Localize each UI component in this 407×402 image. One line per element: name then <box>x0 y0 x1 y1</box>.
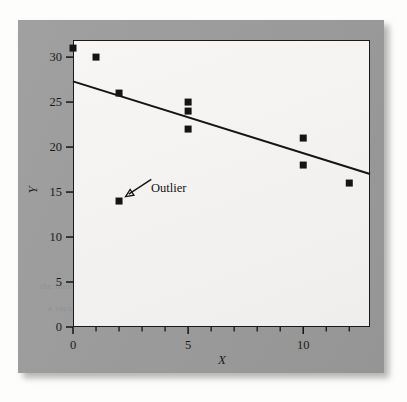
y-tick-label: 30 <box>31 51 62 64</box>
y-tick-label: 20 <box>31 141 62 154</box>
y-axis-title: Y <box>25 186 41 193</box>
outlier-arrow-annotation <box>126 179 152 196</box>
figure-container: the faint offset text showing through th… <box>0 0 407 402</box>
outlier-annotation-label: Outlier <box>151 181 186 196</box>
x-tick-label: 10 <box>297 339 310 352</box>
x-axis-minor-tick-marks <box>96 327 349 332</box>
x-tick-label: 0 <box>70 339 76 352</box>
y-axis-tick-marks <box>66 57 73 327</box>
y-tick-label: 25 <box>31 96 62 109</box>
y-tick-label: 0 <box>31 321 62 334</box>
y-tick-label: 5 <box>31 276 62 289</box>
x-tick-label: 5 <box>185 339 191 352</box>
x-axis-tick-marks <box>73 327 303 334</box>
y-tick-label: 10 <box>31 231 62 244</box>
x-axis-title: X <box>218 352 226 368</box>
